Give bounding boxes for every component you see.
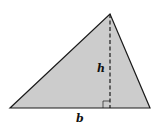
- height-label: h: [97, 62, 105, 75]
- base-label: b: [76, 112, 84, 125]
- triangle-diagram: h b: [0, 0, 156, 127]
- triangle: [10, 14, 150, 108]
